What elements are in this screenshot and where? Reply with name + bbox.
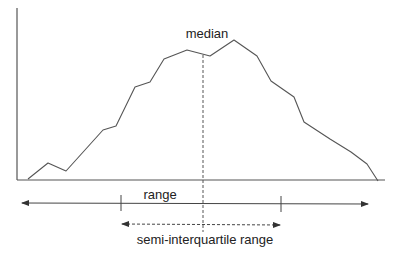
siqr-arrow	[122, 224, 280, 225]
range-label: range	[143, 187, 176, 202]
median-label: median	[186, 26, 229, 41]
siqr-label: semi-interquartile range	[137, 232, 274, 247]
range-arrow	[22, 203, 368, 204]
dispersion-diagram: median range semi-interquartile range	[0, 0, 400, 254]
